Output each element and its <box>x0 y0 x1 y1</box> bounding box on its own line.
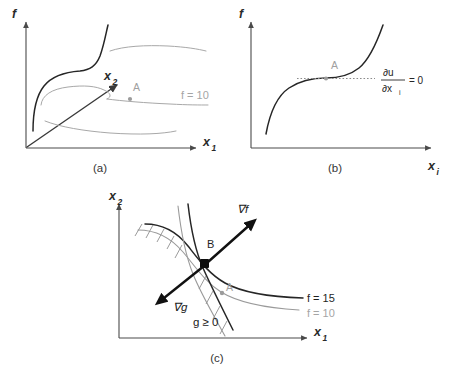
panel-c-x2-axis-label: x <box>108 189 117 203</box>
panel-a-f-axis-label: f <box>12 7 18 21</box>
panel-b-inflection-point: f x i A ∂u ∂x i = 0 (b) <box>225 0 457 180</box>
panel-a-x1-axis-label: x <box>202 135 211 149</box>
panel-c-contour-f15 <box>145 224 303 298</box>
panel-c-contour-f10-label: f = 10 <box>307 307 335 319</box>
panel-b-xi-axis-subscript: i <box>437 167 440 177</box>
panel-c-x1-axis-label: x <box>313 325 322 339</box>
panel-b-condition-denominator: ∂x <box>382 83 392 94</box>
panel-c-point-a-marker <box>220 291 224 295</box>
panel-b-condition-denominator-subscript: i <box>399 89 401 96</box>
panel-c-point-a-label: A <box>226 281 233 293</box>
panel-a-caption: (a) <box>93 162 107 174</box>
panel-c-x2-axis-subscript: 2 <box>117 197 123 207</box>
panel-c-contour-f15-label: f = 15 <box>307 292 335 304</box>
panel-b-condition: ∂u ∂x i = 0 <box>381 67 424 96</box>
panel-c-caption: (c) <box>210 352 224 364</box>
panel-b-caption: (b) <box>328 162 342 174</box>
panel-b-condition-numerator: ∂u <box>383 67 394 78</box>
panel-a-contour-inner <box>41 86 110 105</box>
panel-b-point-a-marker <box>324 76 328 80</box>
panel-c-grad-f-label: ∇f <box>237 203 250 215</box>
panel-c-constraint-label: g ≥ 0 <box>193 316 219 328</box>
panel-a-point-a-marker <box>128 97 132 101</box>
panel-b-point-a-label: A <box>331 59 338 71</box>
panel-c-x1-axis-subscript: 1 <box>323 333 328 343</box>
panel-a-contour-lower <box>45 121 176 134</box>
panel-b-f-axis-label: f <box>239 7 245 21</box>
figure-root: f x 1 x 2 A f = 10 (a) f <box>0 0 457 372</box>
panel-a-x2-axis-label: x <box>103 69 112 83</box>
panel-a-point-a-label: A <box>133 81 140 93</box>
panel-a-saddle-surface: f x 1 x 2 A f = 10 (a) <box>0 0 230 180</box>
panel-c-grad-f-arrow <box>208 222 253 262</box>
panel-c-grad-g-label: ∇g <box>173 301 188 313</box>
panel-a-x1-axis-subscript: 1 <box>212 143 217 153</box>
panel-a-x2-axis-arrow <box>27 85 117 147</box>
panel-a-contour-upper <box>110 46 206 51</box>
panel-c-point-b-marker <box>200 259 209 268</box>
panel-c-constrained-optimum: x 2 x 1 ∇f ∇g B <box>85 178 385 372</box>
panel-a-surface-profile <box>33 25 108 131</box>
panel-a-x2-axis-subscript: 2 <box>112 77 118 87</box>
panel-b-condition-equals: = 0 <box>409 75 424 86</box>
panel-b-xi-axis-label: x <box>427 159 436 173</box>
panel-c-point-b-label: B <box>207 238 214 250</box>
panel-a-contour-label: f = 10 <box>181 89 209 101</box>
